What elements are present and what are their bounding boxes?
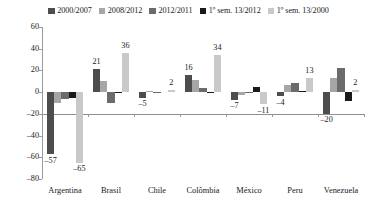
y-axis-labels: 6040200–20–40–60–80 bbox=[2, 27, 39, 179]
legend-swatch-icon bbox=[149, 8, 156, 15]
bar-value-label: –20 bbox=[320, 116, 332, 124]
legend-item-label: 2000/2007 bbox=[57, 7, 92, 15]
bar-slot bbox=[238, 27, 245, 179]
bar[interactable] bbox=[345, 92, 352, 101]
y-axis-tick-label: –60 bbox=[27, 153, 39, 161]
legend-swatch-icon bbox=[48, 8, 55, 15]
bar-group-bars bbox=[318, 27, 364, 179]
bar-slot bbox=[185, 27, 192, 179]
bar[interactable] bbox=[238, 92, 245, 95]
bar[interactable] bbox=[168, 90, 175, 92]
legend-swatch-icon bbox=[268, 8, 275, 15]
bar-slot bbox=[284, 27, 291, 179]
legend-item-label: 1º sem. 13/2012 bbox=[209, 7, 261, 15]
bar-slot bbox=[199, 27, 206, 179]
bar[interactable] bbox=[253, 87, 260, 92]
y-axis-tick-label: –80 bbox=[27, 175, 39, 183]
bar[interactable] bbox=[323, 92, 330, 114]
bar[interactable] bbox=[146, 91, 153, 92]
bar[interactable] bbox=[185, 75, 192, 92]
bar-group: –57–65 bbox=[42, 27, 88, 179]
legend-item[interactable]: 2000/2007 bbox=[48, 7, 92, 15]
bar[interactable] bbox=[277, 92, 284, 96]
bar-value-label: 13 bbox=[305, 67, 313, 75]
legend-item[interactable]: 2008/2012 bbox=[99, 7, 143, 15]
bar[interactable] bbox=[192, 80, 199, 92]
bar-group: –52 bbox=[134, 27, 180, 179]
x-axis-category-label: Colômbia bbox=[186, 187, 219, 195]
y-axis-tick-label: –40 bbox=[27, 131, 39, 139]
bar-slot bbox=[352, 27, 359, 179]
bar-group: –202 bbox=[318, 27, 364, 179]
bar-value-label: –4 bbox=[277, 99, 285, 107]
bar[interactable] bbox=[69, 92, 76, 97]
bar[interactable] bbox=[61, 92, 68, 99]
bar[interactable] bbox=[47, 92, 54, 154]
bar-value-label: –11 bbox=[257, 107, 269, 115]
bar[interactable] bbox=[299, 91, 306, 92]
bar[interactable] bbox=[76, 92, 83, 163]
bar-slot bbox=[161, 27, 168, 179]
bar-slot bbox=[260, 27, 267, 179]
bar-slot bbox=[323, 27, 330, 179]
bar[interactable] bbox=[330, 78, 337, 92]
bar[interactable] bbox=[260, 92, 267, 104]
x-axis-tick-mark bbox=[364, 114, 365, 117]
bar[interactable] bbox=[291, 83, 298, 92]
plot-area: 6040200–20–40–60–80 –57–65Argentina2136B… bbox=[42, 27, 364, 179]
bar[interactable] bbox=[231, 92, 238, 100]
legend-item-label: 1º sem. 13/2000 bbox=[277, 7, 329, 15]
y-axis-tick-label: 20 bbox=[31, 66, 39, 74]
bar-value-label: 21 bbox=[93, 58, 101, 66]
bar-slot bbox=[245, 27, 252, 179]
bar[interactable] bbox=[199, 88, 206, 92]
legend-swatch-icon bbox=[99, 8, 106, 15]
bar-slot bbox=[61, 27, 68, 179]
bar[interactable] bbox=[306, 78, 313, 92]
bar-group: –413 bbox=[272, 27, 318, 179]
bar[interactable] bbox=[245, 92, 252, 93]
legend-item[interactable]: 1º sem. 13/2000 bbox=[268, 7, 329, 15]
bar-slot bbox=[253, 27, 260, 179]
bar-value-label: –65 bbox=[73, 165, 85, 173]
bar-value-label: 16 bbox=[185, 64, 193, 72]
bar[interactable] bbox=[107, 92, 114, 103]
legend-item[interactable]: 1º sem. 13/2012 bbox=[200, 7, 261, 15]
legend-item[interactable]: 2012/2011 bbox=[149, 7, 192, 15]
legend-item-label: 2012/2011 bbox=[158, 7, 192, 15]
x-axis-category-label: México bbox=[236, 187, 262, 195]
legend-item-label: 2008/2012 bbox=[108, 7, 143, 15]
bar[interactable] bbox=[337, 68, 344, 92]
bar-group: 2136 bbox=[88, 27, 134, 179]
bar[interactable] bbox=[115, 92, 122, 93]
bar[interactable] bbox=[352, 90, 359, 92]
x-axis-category-label: Brasil bbox=[101, 187, 121, 195]
bar-group: 1634 bbox=[180, 27, 226, 179]
chart-legend: 2000/20072008/20122012/20111º sem. 13/20… bbox=[0, 7, 377, 15]
bar-chart: 2000/20072008/20122012/20111º sem. 13/20… bbox=[0, 0, 377, 208]
bar[interactable] bbox=[153, 92, 160, 93]
y-axis-tick-mark bbox=[39, 179, 42, 180]
x-axis-category-label: Argentina bbox=[48, 187, 81, 195]
y-axis-tick-label: –20 bbox=[27, 110, 39, 118]
x-axis-category-label: Venezuela bbox=[324, 187, 358, 195]
bar[interactable] bbox=[54, 92, 61, 103]
bar-value-label: 34 bbox=[213, 44, 221, 52]
bar[interactable] bbox=[93, 69, 100, 92]
bar[interactable] bbox=[100, 81, 107, 92]
bar-value-label: 2 bbox=[169, 79, 173, 87]
bar-slot bbox=[306, 27, 313, 179]
x-axis-category-label: Peru bbox=[287, 187, 302, 195]
bar-value-label: 2 bbox=[353, 79, 357, 87]
bar[interactable] bbox=[122, 53, 129, 92]
bar-slot bbox=[337, 27, 344, 179]
bar-slot bbox=[93, 27, 100, 179]
bar[interactable] bbox=[284, 85, 291, 93]
bar-slot bbox=[76, 27, 83, 179]
bar[interactable] bbox=[214, 55, 221, 92]
bar-slot bbox=[168, 27, 175, 179]
bar-group: –7–11 bbox=[226, 27, 272, 179]
bar[interactable] bbox=[139, 92, 146, 97]
bar[interactable] bbox=[207, 92, 214, 93]
bar-value-label: –7 bbox=[231, 102, 239, 110]
